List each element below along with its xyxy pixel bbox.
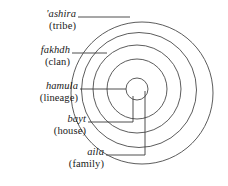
label-fakhdh-gloss: (clan) <box>0 56 70 68</box>
label-fakhdh-clan: fakhdh (clan) <box>0 44 70 68</box>
ring-fakhdh-clan <box>82 33 197 148</box>
label-bayt-house: bayt (house) <box>0 113 86 137</box>
label-ashira-gloss: (tribe) <box>0 20 76 32</box>
label-aila-term: aila <box>0 146 104 158</box>
label-ashira-tribe: 'ashira (tribe) <box>0 8 76 32</box>
label-hamula-lineage: hamula (lineage) <box>0 80 78 104</box>
label-hamula-term: hamula <box>0 80 78 92</box>
kinship-circles-diagram: 'ashira (tribe) fakhdh (clan) hamula (li… <box>0 0 228 186</box>
ring-ashira-tribe <box>71 22 213 164</box>
label-hamula-gloss: (lineage) <box>0 92 78 104</box>
label-ashira-term: 'ashira <box>0 8 76 20</box>
label-bayt-gloss: (house) <box>0 125 86 137</box>
leader-line-aila <box>106 91 145 155</box>
label-aila-family: aila (family) <box>0 146 104 170</box>
label-aila-gloss: (family) <box>0 158 104 170</box>
label-fakhdh-term: fakhdh <box>0 44 70 56</box>
label-bayt-term: bayt <box>0 113 86 125</box>
